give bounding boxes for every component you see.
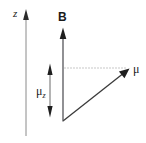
z-axis-label: z (13, 8, 17, 19)
mu-label: μ (133, 63, 139, 75)
z-axis-arrowhead-icon (23, 9, 29, 20)
mu-z-subscript: z (42, 91, 45, 100)
mu-z-double-arrow (47, 64, 52, 118)
b-field-arrow (60, 28, 67, 122)
mu-vector-line (63, 73, 124, 121)
mu-vector-arrow (63, 69, 129, 121)
mu-vector-arrowhead-icon (119, 69, 130, 79)
magnetic-moment-diagram: z B μ μz (0, 0, 146, 143)
mu-z-arrowhead-down-icon (47, 106, 52, 118)
b-field-label: B (58, 11, 67, 23)
mu-z-arrowhead-up-icon (47, 64, 52, 76)
b-field-arrowhead-icon (60, 28, 67, 40)
z-axis-arrow (23, 9, 29, 136)
diagram-canvas (0, 0, 146, 143)
mu-z-label: μz (36, 85, 46, 100)
